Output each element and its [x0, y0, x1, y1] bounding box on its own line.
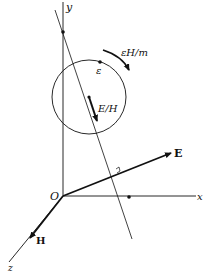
z-axis-label: z — [7, 263, 13, 273]
drift-velocity-label: E/H — [97, 103, 118, 114]
diagram-canvas: y x z O ε E/H εH/m E H — [0, 0, 205, 273]
y-axis-label: y — [65, 1, 73, 14]
rotation-label: εH/m — [121, 47, 148, 58]
charge-point — [98, 60, 102, 64]
path-point-x-axis — [127, 195, 131, 199]
charge-label: ε — [96, 65, 101, 76]
right-angle-marker — [116, 167, 120, 173]
origin-label: O — [50, 190, 59, 203]
x-axis-label: x — [197, 191, 203, 202]
magnetic-field-vector — [30, 196, 63, 238]
drift-path-line — [55, 10, 132, 239]
electric-field-label: E — [174, 147, 182, 160]
drift-velocity-arrow — [89, 97, 97, 121]
path-point-top — [61, 30, 65, 34]
magnetic-field-label: H — [36, 235, 45, 246]
electric-field-vector — [63, 153, 171, 196]
